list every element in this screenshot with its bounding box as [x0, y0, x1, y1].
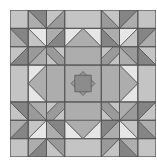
corner-square: [10, 10, 28, 28]
side-strip: [138, 65, 156, 102]
center-square: [75, 75, 91, 92]
corner-square: [138, 139, 156, 157]
corner-square: [10, 139, 28, 157]
quilt-svg: [10, 10, 156, 157]
side-strip: [65, 10, 102, 28]
corner-square: [138, 10, 156, 28]
side-strip: [10, 65, 28, 102]
quilt-block: [10, 10, 156, 157]
side-strip: [65, 139, 102, 157]
quilt-pieces: [10, 10, 156, 157]
